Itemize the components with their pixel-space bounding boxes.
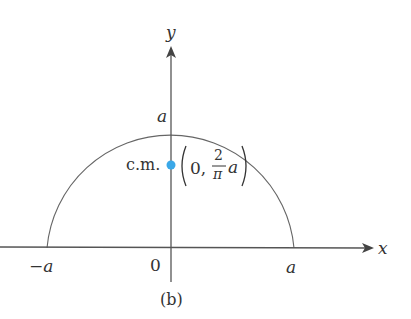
x-axis-label: x [378, 238, 388, 258]
open-paren [182, 146, 186, 186]
fraction-variable: a [228, 157, 238, 177]
origin-label: 0 [150, 255, 161, 275]
pos-a-label: a [286, 257, 296, 277]
cm-x-coord: 0, [190, 158, 206, 178]
y-axis-label: y [166, 22, 176, 42]
center-of-mass-dot [167, 161, 176, 170]
close-paren [242, 146, 246, 186]
figure-caption: (b) [160, 290, 183, 309]
semicircle-center-of-mass-figure: y x a −a 0 a c.m. 0, 2 π a (b) [0, 0, 411, 319]
center-of-mass-label: c.m. [126, 155, 160, 174]
neg-a-label: −a [29, 256, 53, 276]
top-a-label: a [157, 106, 167, 126]
fraction-numerator: 2 [214, 147, 223, 163]
x-axis [0, 247, 368, 248]
fraction-denominator: π [213, 166, 222, 182]
